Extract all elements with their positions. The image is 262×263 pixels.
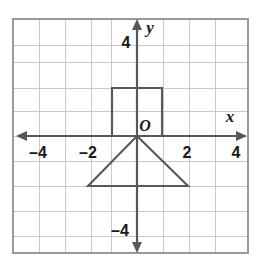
x-axis-label: x: [225, 107, 235, 126]
x-tick-label-neg4: –4: [29, 144, 47, 161]
x-tick-label-pos2: 2: [183, 144, 192, 161]
y-tick-label-pos4: 4: [122, 34, 131, 51]
x-tick-label-pos4: 4: [232, 144, 241, 161]
origin-label: O: [139, 117, 151, 134]
y-tick-label-neg4: –4: [111, 222, 129, 239]
coordinate-plane-svg: –4 –2 2 4 4 –4 O x y: [0, 0, 262, 263]
y-axis-label: y: [144, 18, 154, 37]
coordinate-plane-figure: –4 –2 2 4 4 –4 O x y: [0, 0, 262, 263]
x-tick-label-neg2: –2: [79, 144, 97, 161]
